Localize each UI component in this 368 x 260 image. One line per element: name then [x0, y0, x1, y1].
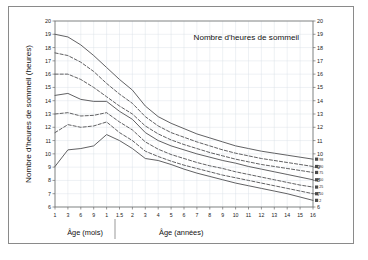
x-tick-label: 6: [183, 212, 186, 218]
y-axis-left: 20191817161514131211109876: [45, 18, 55, 210]
y-tick-left: 20: [45, 18, 51, 24]
percentile-label-50: 50: [319, 178, 323, 182]
percentile-label-2: 2: [319, 199, 321, 203]
grid-layer: [55, 21, 313, 207]
x-tick-label: 5: [170, 212, 173, 218]
x-tick-label: 11: [246, 212, 251, 218]
y-tick-left: 16: [45, 71, 51, 77]
y-tick-right: 11: [317, 138, 323, 144]
x-tick-label: 6: [79, 212, 82, 218]
y-tick-left: 18: [45, 45, 51, 51]
y-tick-right: 17: [317, 58, 323, 64]
x-tick-label: 1.5: [116, 212, 123, 218]
y-tick-left: 14: [45, 98, 51, 104]
percentile-label-90: 90: [319, 165, 323, 169]
chart-title: Nombre d'heures de sommeil: [194, 33, 300, 42]
y-tick-left: 12: [45, 124, 51, 130]
percentile-label-98: 98: [319, 158, 323, 162]
x-tick-label: 14: [284, 212, 290, 218]
y-tick-left: 19: [45, 31, 51, 37]
y-tick-right: 16: [317, 71, 323, 77]
y-tick-left: 11: [45, 138, 51, 144]
percentile-label-10: 10: [319, 192, 323, 196]
percentile-marker-98: [315, 158, 318, 161]
y-tick-left: 10: [45, 151, 51, 157]
sleep-percentile-chart: 20191817161514131211109876 2019181716151…: [9, 7, 355, 245]
x-tick-label: 10: [233, 212, 239, 218]
y-tick-left: 7: [48, 191, 51, 197]
x-tick-label: 9: [221, 212, 224, 218]
x-tick-label: 9: [92, 212, 95, 218]
percentile-marker-75: [315, 171, 318, 174]
y-tick-right: 20: [317, 18, 323, 24]
x-tick-label: 2: [131, 212, 134, 218]
y-tick-right: 18: [317, 45, 323, 51]
age-years-label: Âge (années): [159, 228, 203, 237]
x-tick-label: 1: [105, 212, 108, 218]
percentile-marker-2: [315, 199, 318, 202]
x-tick-label: 1: [54, 212, 57, 218]
y-tick-left: 17: [45, 58, 51, 64]
percentile-marker-50: [315, 178, 318, 181]
y-tick-left: 9: [48, 164, 51, 170]
y-axis-label: Nombre d'heures de sommeil (heures): [24, 45, 33, 183]
age-months-label: Âge (mois): [67, 228, 103, 237]
percentile-marker-90: [315, 165, 318, 168]
chart-area: 20191817161514131211109876 2019181716151…: [9, 7, 355, 245]
x-tick-label: 7: [195, 212, 198, 218]
x-tick-label: 15: [297, 212, 303, 218]
percentile-marker-10: [315, 192, 318, 195]
percentile-label-25: 25: [319, 185, 323, 189]
x-tick-label: 16: [310, 212, 316, 218]
y-tick-right: 19: [317, 31, 323, 37]
y-tick-left: 15: [45, 84, 51, 90]
y-tick-left: 6: [48, 204, 51, 210]
y-tick-right: 10: [317, 151, 323, 157]
y-tick-right: 14: [317, 98, 323, 104]
y-tick-right: 6: [317, 204, 320, 210]
x-tick-label: 4: [157, 212, 160, 218]
y-tick-left: 13: [45, 111, 51, 117]
y-tick-left: 8: [48, 177, 51, 183]
y-tick-right: 13: [317, 111, 323, 117]
x-tick-label: 8: [208, 212, 211, 218]
percentile-marker-25: [315, 185, 318, 188]
x-tick-label: 3: [66, 212, 69, 218]
percentile-label-75: 75: [319, 171, 323, 175]
y-tick-right: 12: [317, 124, 323, 130]
x-tick-label: 3: [144, 212, 147, 218]
x-axis-ticks: 136911.52345678910111213141516: [54, 207, 316, 218]
y-tick-right: 15: [317, 84, 323, 90]
x-tick-label: 12: [259, 212, 265, 218]
figure-frame: 20191817161514131211109876 2019181716151…: [8, 6, 354, 244]
x-tick-label: 13: [271, 212, 277, 218]
